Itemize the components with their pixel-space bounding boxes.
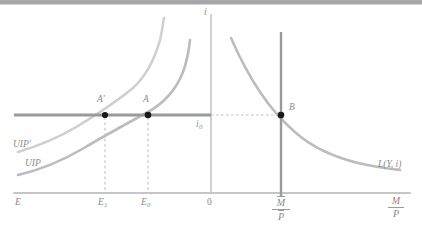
diagram-canvas xyxy=(0,0,422,229)
uip-shifted-curve xyxy=(18,18,164,152)
interest-rate-level-label: i0 xyxy=(196,120,202,130)
top-border-band xyxy=(0,0,422,5)
x-tick-label-money-supply: M P xyxy=(272,196,290,222)
uip-curve-label: UIP xyxy=(25,159,41,169)
money-supply-numerator-text: M xyxy=(277,196,285,208)
real-money-numerator: M xyxy=(388,196,404,207)
x-tick-e1-subscript: 1 xyxy=(104,201,107,208)
x-tick-e0-letter: E xyxy=(141,197,147,207)
money-demand-curve xyxy=(231,38,400,170)
money-supply-denominator-text: P xyxy=(278,210,284,222)
figure-root: i i0 A′ A B UIP′ UIP L(Y, i) E E1 E0 0 M… xyxy=(0,0,422,229)
uip-curve xyxy=(18,40,190,175)
point-marker-a xyxy=(145,112,152,119)
point-label-a: A xyxy=(143,95,149,105)
real-money-denominator: P xyxy=(388,207,404,219)
x-tick-e1-letter: E xyxy=(98,197,104,207)
interest-rate-axis-label: i xyxy=(204,7,207,17)
point-label-b: B xyxy=(289,103,295,113)
point-label-a-prime: A′ xyxy=(97,95,105,105)
exchange-rate-axis-label: E xyxy=(15,198,21,208)
point-marker-a-prime xyxy=(102,112,108,118)
real-money-axis-label: M P xyxy=(388,196,404,219)
interest-rate-level-subscript: 0 xyxy=(199,123,202,130)
x-tick-e0-subscript: 0 xyxy=(147,201,150,208)
money-supply-numerator: M xyxy=(272,196,290,209)
point-marker-b xyxy=(278,112,285,119)
x-tick-label-e0: E0 xyxy=(141,198,150,208)
money-supply-denominator: P xyxy=(272,209,290,223)
uip-shifted-curve-label: UIP′ xyxy=(13,140,31,150)
origin-label: 0 xyxy=(207,198,212,208)
x-tick-label-e1: E1 xyxy=(98,198,107,208)
money-demand-curve-label: L(Y, i) xyxy=(378,160,401,170)
